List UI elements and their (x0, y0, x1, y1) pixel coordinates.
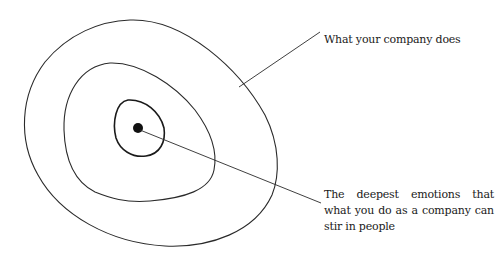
core-leader-line (140, 130, 321, 203)
outer-ring-label: What your company does (324, 32, 461, 48)
diagram-canvas: What your company does The deepest emoti… (0, 0, 499, 255)
outer-leader-line (239, 32, 320, 87)
core-dot (133, 123, 143, 133)
core-label: The deepest emotions that what you do as… (324, 187, 494, 235)
outer-ring (24, 20, 277, 246)
